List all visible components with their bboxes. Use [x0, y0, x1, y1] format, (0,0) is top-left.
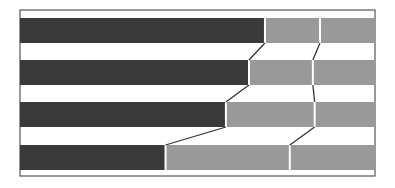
bar-segment-3 [315, 102, 375, 127]
bar-segment-2 [226, 102, 315, 127]
bar-segment-2 [249, 60, 313, 85]
bar-segment-3 [320, 18, 375, 43]
stacked-bar-chart [0, 0, 395, 188]
bar-segment-1 [20, 145, 166, 170]
bar-segment-2 [166, 145, 290, 170]
bar-segment-1 [20, 102, 226, 127]
bar-segment-3 [313, 60, 375, 85]
bar-segment-2 [265, 18, 320, 43]
bar-segment-3 [290, 145, 375, 170]
bar-segment-1 [20, 60, 249, 85]
bar-segment-1 [20, 18, 265, 43]
